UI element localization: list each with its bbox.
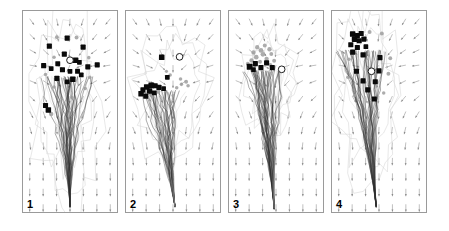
panel-1[interactable]: 1 bbox=[22, 10, 118, 213]
panel-4[interactable]: 4 bbox=[331, 10, 427, 213]
panel-plot-1 bbox=[23, 11, 117, 212]
panel-label-4: 4 bbox=[336, 199, 342, 210]
panel-plot-4 bbox=[332, 11, 426, 212]
panel-label-3: 3 bbox=[233, 199, 239, 210]
panel-label-2: 2 bbox=[130, 199, 136, 210]
panel-row: 1234 bbox=[0, 0, 449, 231]
panel-plot-3 bbox=[229, 11, 323, 212]
panel-2[interactable]: 2 bbox=[125, 10, 221, 213]
figure-root: 1234 bbox=[0, 0, 449, 231]
panel-label-1: 1 bbox=[27, 199, 33, 210]
panel-plot-2 bbox=[126, 11, 220, 212]
panel-3[interactable]: 3 bbox=[228, 10, 324, 213]
